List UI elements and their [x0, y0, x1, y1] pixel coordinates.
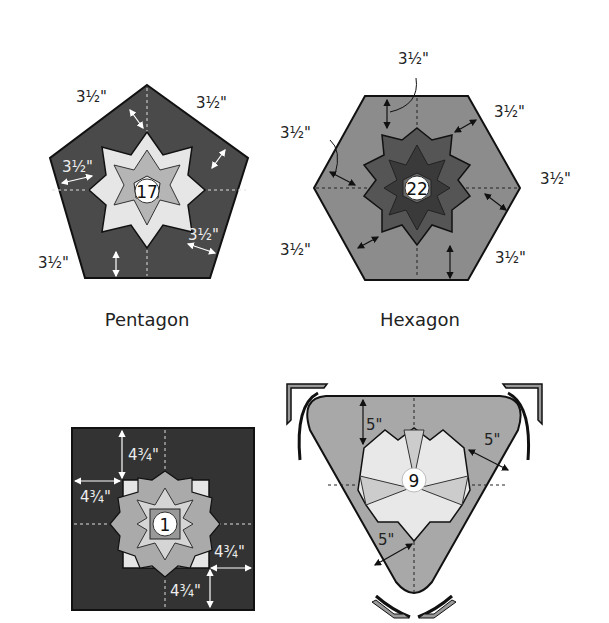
measurement-label: 3½" [280, 241, 311, 259]
measurement-label: 3½" [188, 226, 219, 244]
measurement-label: 3½" [38, 254, 69, 272]
corner-piece-bottom [372, 596, 456, 618]
measurement-label: 3½" [495, 249, 526, 267]
measurement-label: 3½" [76, 88, 107, 106]
measurement-label: 4¾" [214, 543, 245, 561]
dresden-plate-1: 1 [110, 471, 220, 577]
measurement-label: 3½" [398, 50, 429, 68]
measurement-label: 4¾" [170, 582, 201, 600]
measurement-label: 3½" [280, 124, 311, 142]
measurement-label: 3½" [540, 170, 571, 188]
measurement-label: 3½" [494, 103, 525, 121]
measurement-label: 4¾" [128, 446, 159, 464]
hexagon-figure: 22 3½" 3½" 3½" 3½" 3½" 3½" Hexagon [280, 50, 571, 330]
block-number-9: 9 [409, 471, 420, 491]
pentagon-figure: 17 3½" 3½" 3½" 3½" 3½" Pentagon [38, 85, 248, 330]
measurement-label: 5" [378, 531, 394, 549]
block-number-1: 1 [160, 515, 171, 535]
hexagon-caption: Hexagon [380, 309, 460, 330]
triangle-figure: 9 5" 5" 5" [287, 384, 542, 618]
measurement-label: 4¾" [80, 488, 111, 506]
measurement-label: 3½" [196, 94, 227, 112]
block-number-22: 22 [406, 179, 428, 199]
pentagon-caption: Pentagon [105, 309, 190, 330]
measurement-label: 3½" [62, 158, 93, 176]
measurement-label: 5" [366, 416, 382, 434]
square-figure: 1 4¾" 4¾" 4¾" 4¾" [72, 428, 254, 610]
block-number-17: 17 [136, 182, 158, 202]
measurement-label: 5" [484, 431, 500, 449]
quilt-diagram: 17 3½" 3½" 3½" 3½" 3½" Pentagon 22 [0, 0, 609, 623]
